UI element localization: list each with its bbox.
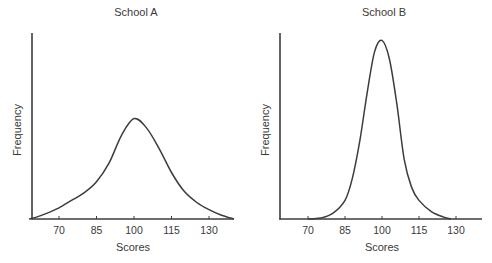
chart-canvas: School A 7085100115130 Scores Frequency … [0,0,492,263]
x-axis-label: Scores [116,241,151,253]
panel-school-b: School B 7085100115130 Scores Frequency [259,6,482,253]
x-tick-label: 70 [53,224,65,236]
distribution-curve [29,118,234,219]
chart-title: School A [114,6,158,18]
x-tick-label: 100 [373,224,391,236]
y-axis-label: Frequency [11,104,23,156]
x-tick-label: 130 [447,224,465,236]
panel-school-a: School A 7085100115130 Scores Frequency [11,6,234,253]
distribution-curve [308,40,451,219]
x-tick-label: 100 [125,224,143,236]
y-axis-label: Frequency [259,104,271,156]
x-tick-label: 85 [91,224,103,236]
x-tick-label: 70 [302,224,314,236]
x-axis-label: Scores [365,241,400,253]
x-tick-label: 115 [163,224,180,236]
x-tick-label: 130 [200,224,218,236]
chart-title: School B [362,6,406,18]
x-tick-label: 85 [339,224,351,236]
x-tick-label: 115 [411,224,428,236]
